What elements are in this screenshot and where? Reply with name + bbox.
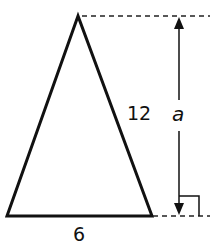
triangle-diagram: 12 a 6	[0, 0, 222, 248]
height-label: a	[172, 102, 184, 126]
arrow-up-icon	[174, 17, 184, 29]
base-label: 6	[73, 223, 85, 245]
arrow-down-icon	[174, 203, 184, 215]
side-label: 12	[127, 102, 151, 124]
